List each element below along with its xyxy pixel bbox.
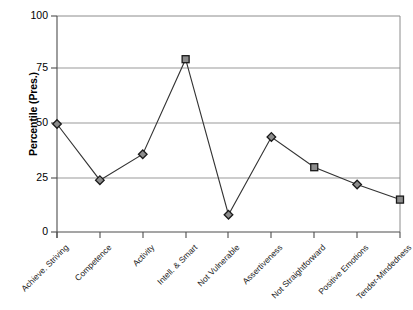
data-point-tender-mindedness [397, 196, 404, 203]
plot-border [57, 16, 400, 232]
data-point-achieve-striving [53, 120, 62, 129]
data-point-not-straightforward [311, 164, 318, 171]
data-point-competence [96, 176, 105, 185]
data-point-assertiveness [267, 133, 276, 142]
x-axis [57, 232, 400, 238]
data-point-intell-smart [182, 56, 189, 63]
data-point-activity [138, 150, 147, 159]
data-series-line [57, 59, 400, 215]
gridlines [57, 68, 400, 178]
data-point-positive-emotions [353, 180, 362, 189]
data-point-not-vulnerable [224, 210, 233, 219]
data-markers [53, 56, 404, 219]
percentile-line-chart: Percentile (Pres.) 100 75 50 25 0 [0, 0, 413, 310]
